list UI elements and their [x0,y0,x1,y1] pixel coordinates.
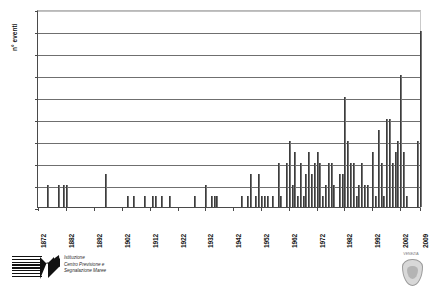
x-axis: 1872188218921902191219221932194219521962… [37,208,421,254]
bar-1981 [342,174,344,207]
bar-2009 [420,31,422,207]
wave-line [12,276,42,277]
x-tick-mark-1872 [38,208,39,211]
bar-1879 [58,185,60,207]
x-tick-mark-1962 [289,208,290,211]
bar-1914 [155,196,157,207]
bar-1990 [367,185,369,207]
bar-1934 [211,196,213,207]
bar-1985 [353,163,355,207]
bar-1951 [258,174,260,207]
footer: Istituzione Centro Previsione e Segnalaz… [0,252,434,290]
x-tick-mark-1892 [94,208,95,211]
bar-1964 [294,152,296,207]
bar-1945 [241,196,243,207]
x-tick-label-2002: 2002 [403,234,410,248]
bar-1969 [308,152,310,207]
bar-1972 [317,152,319,207]
x-tick-mark-1932 [205,208,206,211]
bar-1993 [375,196,377,207]
crest-emblem-icon [407,266,418,279]
x-tick-label-1972: 1972 [320,234,327,248]
logo-line-2: Centro Previsione e [64,262,140,269]
y-axis-label: n° eventi [11,23,18,51]
bar-1980 [339,174,341,207]
bar-1998 [389,119,391,207]
bar-1976 [328,163,330,207]
x-tick-label-1902: 1902 [125,234,132,248]
logo-left-text: Istituzione Centro Previsione e Segnalaz… [64,255,140,275]
bar-1961 [286,163,288,207]
bar-1881 [63,185,65,207]
arrow-icon [39,254,61,280]
bar-1982 [344,97,346,207]
x-tick-mark-1912 [150,208,151,211]
bar-2003 [403,152,405,207]
x-tick-label-1982: 1982 [347,234,354,248]
x-tick-mark-1982 [344,208,345,211]
bar-1968 [305,174,307,207]
wave-line [12,270,42,271]
x-tick-label-1892: 1892 [97,234,104,248]
waves-icon [12,256,42,278]
logo-right: VENEZIA [396,252,426,288]
bar-1875 [47,185,49,207]
wave-line [12,256,42,257]
wave-line [12,273,42,274]
x-tick-mark-1972 [317,208,318,211]
bar-1910 [144,196,146,207]
bar-1948 [250,174,252,207]
bar-1986 [356,196,358,207]
bar-1896 [105,174,107,207]
x-tick-label-1992: 1992 [375,234,382,248]
x-tick-label-1922: 1922 [181,234,188,248]
wave-line [12,259,42,260]
bar-1953 [264,196,266,207]
bar-1989 [364,185,366,207]
bar-1952 [261,196,263,207]
bar-1947 [247,196,249,207]
bar-1966 [300,163,302,207]
x-tick-mark-1922 [178,208,179,211]
x-tick-label-1952: 1952 [264,234,271,248]
crest-shield-icon [402,259,423,286]
bar-2000 [395,152,397,207]
x-tick-mark-1902 [122,208,123,211]
bar-1935 [214,196,216,207]
x-tick-label-1932: 1932 [208,234,215,248]
logo-line-3: Segnalazione Maree [64,268,140,275]
bar-1904 [127,196,129,207]
wave-line [12,264,42,265]
x-tick-mark-1942 [233,208,234,211]
x-tick-mark-2009 [420,208,421,211]
crest-caption: VENEZIA [398,252,424,259]
bar-1973 [319,163,321,207]
logo-line-1: Istituzione [64,255,140,262]
bar-1995 [381,163,383,207]
bar-1956 [272,196,274,207]
bar-1954 [267,196,269,207]
bar-1971 [314,163,316,207]
bar-1970 [311,174,313,207]
bar-1996 [383,196,385,207]
wave-line [12,267,42,268]
x-tick-label-2009: 2009 [423,234,430,248]
x-tick-label-1872: 1872 [41,234,48,248]
histogram-chart: n° eventi 024681012141618 18721882189219… [0,0,434,232]
bar-1919 [169,196,171,207]
bar-1959 [280,196,282,207]
bar-1965 [297,196,299,207]
plot-area: n° eventi 024681012141618 [37,10,421,208]
bar-2001 [397,141,399,207]
bar-1913 [152,196,154,207]
bar-1983 [347,141,349,207]
bar-1994 [378,130,380,207]
x-tick-mark-1882 [66,208,67,211]
bar-1975 [325,185,327,207]
bar-1928 [194,196,196,207]
bar-2004 [406,196,408,207]
bar-1932 [205,185,207,207]
x-tick-label-1962: 1962 [292,234,299,248]
bar-series [38,11,420,207]
chart-page: n° eventi 024681012141618 18721882189219… [0,0,434,290]
